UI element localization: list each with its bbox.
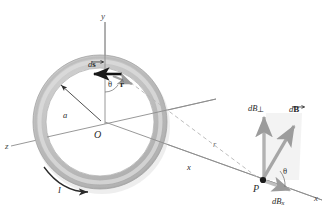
dB-perp-label: dB⊥ — [248, 104, 264, 114]
dB-vector-label: dB — [289, 105, 299, 114]
distance-x-label: x — [187, 163, 191, 172]
current-label: I — [58, 186, 61, 195]
r-hat-accent: ^ — [120, 78, 124, 85]
theta-point-label: θ — [283, 167, 287, 176]
distance-r-label: r — [213, 140, 216, 149]
point-P-label: P — [253, 184, 259, 194]
ds-vector-arrow-accent — [92, 60, 105, 64]
ds-vector-label: ds — [88, 60, 96, 69]
diagram-canvas — [0, 0, 327, 213]
dBx-subscript: x — [281, 199, 284, 206]
y-axis-label: y — [101, 12, 105, 21]
r-hat-label: ^r — [120, 80, 124, 89]
theta-loop-label: θ — [108, 80, 112, 89]
dBx-label: dBx — [272, 197, 284, 207]
x-axis-label: x — [314, 194, 318, 203]
dB-vector-arrow-accent — [293, 105, 306, 109]
dBx-vector-arrow — [264, 181, 290, 190]
field-vector-group — [260, 113, 302, 190]
origin-label: O — [94, 130, 101, 140]
dB-perp-subscript: ⊥ — [257, 105, 264, 114]
point-P-marker — [260, 177, 266, 183]
z-axis-label: z — [5, 142, 9, 151]
physics-diagram-current-loop: y z x O a I ds θ ^r r x P θ dB⊥ dB dBx — [0, 0, 327, 213]
radius-label: a — [63, 111, 67, 120]
